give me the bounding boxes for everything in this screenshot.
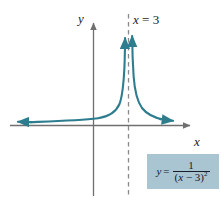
equation-expression: y = 1 (x − 3)2 bbox=[156, 160, 209, 183]
curve-left-branch bbox=[30, 38, 125, 122]
equation-callout-box: y = 1 (x − 3)2 bbox=[147, 154, 219, 189]
equation-equals-sign: = bbox=[163, 166, 169, 177]
equation-lhs: y bbox=[156, 166, 161, 177]
function-graph-figure: y x x = 3 y = 1 (x − 3)2 bbox=[0, 0, 221, 204]
asymptote-label-value: 3 bbox=[153, 12, 160, 27]
equation-denominator-exponent: 2 bbox=[204, 170, 208, 178]
x-axis-label: x bbox=[194, 135, 200, 148]
asymptote-label: x = 3 bbox=[133, 13, 159, 26]
equation-denominator: (x − 3)2 bbox=[173, 172, 210, 183]
asymptote-label-equals: = bbox=[139, 12, 153, 27]
equation-denominator-minus: − bbox=[183, 171, 195, 183]
curve-right-branch-right-arrow bbox=[160, 119, 173, 121]
curve-right-branch bbox=[132, 38, 164, 120]
equation-fraction: 1 (x − 3)2 bbox=[173, 160, 210, 183]
y-axis-label: y bbox=[78, 12, 84, 25]
equation-numerator: 1 bbox=[185, 160, 197, 171]
